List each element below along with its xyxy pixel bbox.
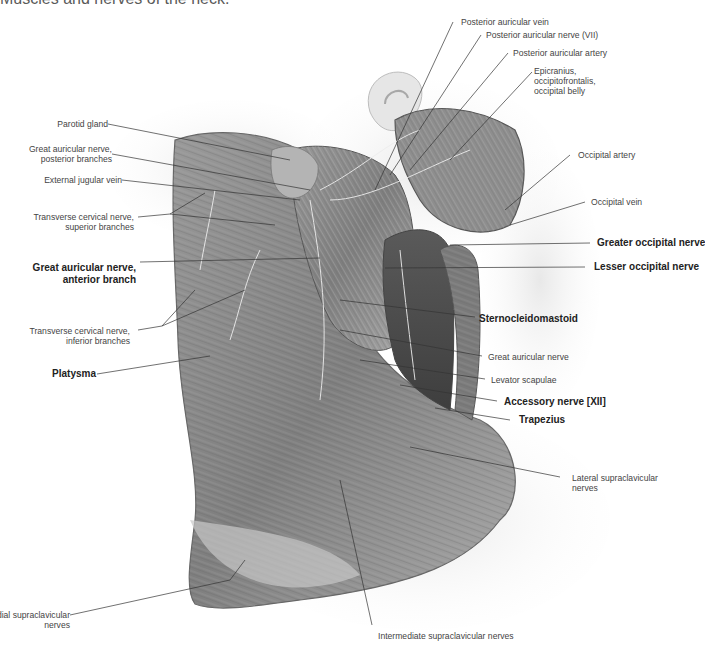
label-great-auricular-anterior: Great auricular nerve, anterior branch — [33, 262, 136, 286]
label-lesser-occipital-nerve: Lesser occipital nerve — [594, 261, 699, 273]
label-intermediate-supraclavicular: Intermediate supraclavicular nerves — [378, 631, 514, 641]
label-epicranius: Epicranius, occipitofrontalis, occipital… — [534, 66, 596, 96]
label-posterior-auricular-vein: Posterior auricular vein — [461, 17, 549, 27]
label-occipital-vein: Occipital vein — [591, 197, 642, 207]
label-posterior-auricular-nerve: Posterior auricular nerve (VII) — [486, 30, 598, 40]
label-external-jugular-vein: External jugular vein — [44, 175, 122, 185]
label-medial-supraclavicular: Medial supraclavicular nerves — [0, 610, 70, 630]
label-occipital-artery: Occipital artery — [578, 150, 635, 160]
label-transverse-cervical-superior: Transverse cervical nerve, superior bran… — [34, 212, 134, 232]
label-great-auricular-nerve: Great auricular nerve — [488, 352, 569, 362]
label-platysma: Platysma — [52, 368, 96, 380]
label-trapezius: Trapezius — [519, 414, 565, 426]
label-transverse-cervical-inferior: Transverse cervical nerve, inferior bran… — [30, 326, 130, 346]
label-posterior-auricular-artery: Posterior auricular artery — [513, 48, 607, 58]
label-accessory-nerve: Accessory nerve [XII] — [504, 396, 606, 408]
label-greater-occipital-nerve: Greater occipital nerve — [597, 237, 705, 249]
label-great-auricular-posterior: Great auricular nerve, posterior branche… — [29, 144, 112, 164]
label-parotid-gland: Parotid gland — [57, 119, 108, 129]
label-lateral-supraclavicular: Lateral supraclavicular nerves — [572, 473, 658, 493]
label-sternocleidomastoid: Sternocleidomastoid — [479, 313, 578, 325]
label-levator-scapulae: Levator scapulae — [491, 375, 556, 385]
